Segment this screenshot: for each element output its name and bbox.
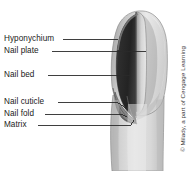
label-matrix: Matrix bbox=[4, 120, 27, 130]
nail-anatomy-figure: Hyponychium Nail plate Nail bed Nail cut… bbox=[0, 0, 187, 171]
label-nail-plate: Nail plate bbox=[4, 46, 39, 56]
finger-illustration bbox=[0, 0, 187, 171]
label-nail-bed: Nail bed bbox=[4, 70, 34, 80]
label-nail-fold: Nail fold bbox=[4, 109, 34, 119]
label-hyponychium: Hyponychium bbox=[4, 34, 54, 44]
shade-right bbox=[156, 99, 164, 171]
nail-free-edge-group bbox=[136, 12, 147, 118]
copyright-credit: © Milady, a part of Cengage Learning bbox=[179, 46, 186, 152]
nail-free-edge-shape bbox=[136, 12, 147, 116]
label-nail-cuticle: Nail cuticle bbox=[4, 97, 44, 107]
shade-center-highlight bbox=[127, 104, 147, 171]
